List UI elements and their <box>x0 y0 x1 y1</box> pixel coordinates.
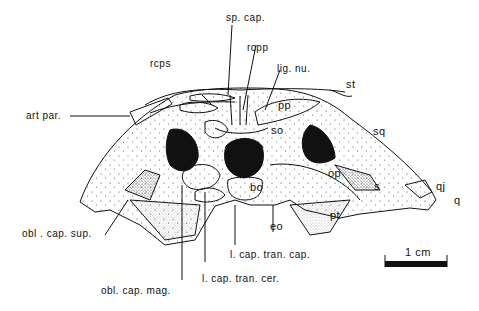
skull-drawing <box>0 0 479 311</box>
label-pt: pt <box>330 209 340 221</box>
label-obl-cap-mag: obl. cap. mag. <box>101 285 171 296</box>
label-rcps: rcps <box>150 58 171 69</box>
label-bo: bo <box>250 181 263 193</box>
label-sq: sq <box>373 125 386 137</box>
label-l-cap-tran-cer: l. cap. tran. cer. <box>202 273 279 284</box>
label-so: so <box>271 124 284 136</box>
label-rcpp: rcpp <box>247 42 268 53</box>
label-art-par: art par. <box>26 110 61 121</box>
label-op: op <box>328 167 341 179</box>
label-qj: qj <box>436 180 446 192</box>
scale-bar-label: 1 cm <box>405 246 431 258</box>
label-obl-cap-sup: obl . cap. sup. <box>22 228 92 239</box>
label-s: s <box>374 180 380 192</box>
label-lig-nu: lig. nu. <box>277 63 310 74</box>
label-st: st <box>346 78 356 90</box>
label-sp-cap: sp. cap. <box>226 12 265 23</box>
label-q: q <box>454 194 461 206</box>
label-pp: pp <box>278 99 291 111</box>
label-l-cap-tran-cap: l. cap. tran. cap. <box>230 249 310 260</box>
label-eo: eo <box>270 220 283 232</box>
